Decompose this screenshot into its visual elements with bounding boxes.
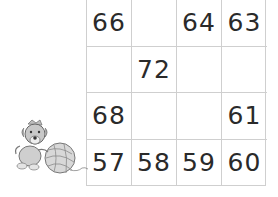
grid-cell: 72: [132, 47, 177, 94]
dog-icon: [16, 120, 49, 170]
grid-cell: 57: [87, 140, 132, 187]
grid-cell: 61: [222, 93, 267, 140]
grid-cell: 64: [177, 0, 222, 47]
grid-cell: 58: [132, 140, 177, 187]
grid-cell: 60: [222, 140, 267, 187]
grid-cell: 68: [87, 93, 132, 140]
grid-cell: [177, 93, 222, 140]
yarn-ball-icon: [45, 143, 88, 173]
grid-cell: [222, 47, 267, 94]
grid-cell: [132, 93, 177, 140]
grid-cell: [87, 47, 132, 94]
dog-with-yarn-ball-icon: [8, 118, 88, 180]
grid-cell: [132, 0, 177, 47]
grid-cell: [177, 47, 222, 94]
grid-cell: 63: [222, 0, 267, 47]
number-grid: 66 64 63 72 68 61 57 58 59 60: [86, 0, 266, 186]
grid-cell: 59: [177, 140, 222, 187]
grid-cell: 66: [87, 0, 132, 47]
